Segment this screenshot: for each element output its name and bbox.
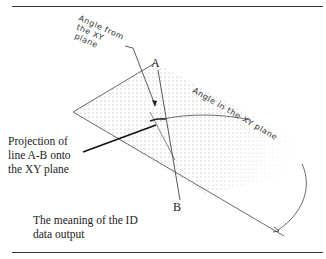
xy-plane <box>73 63 320 194</box>
point-a-label: A <box>151 56 160 71</box>
point-b-label: B <box>173 200 181 215</box>
figure-caption: The meaning of the ID data output <box>33 213 138 241</box>
projection-label: Projection of line A-B onto the XY plane <box>8 134 71 176</box>
diagram-figure: Angle from the XY plane Angle in the XY … <box>0 0 326 259</box>
